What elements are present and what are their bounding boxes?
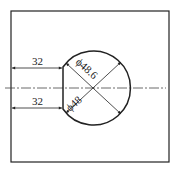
- technical-drawing: 32 32 ϕ48.6 ϕ48: [0, 0, 177, 172]
- part-outline-frame: [11, 11, 169, 162]
- width-32-bottom-label: 32: [32, 95, 43, 107]
- inner-diameter-label: ϕ48: [63, 93, 84, 113]
- outer-diameter-label: ϕ48.6: [74, 56, 101, 82]
- width-32-top-label: 32: [32, 55, 43, 67]
